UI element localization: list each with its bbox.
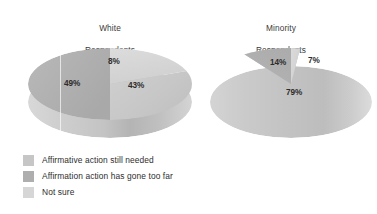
legend-swatch-affirmative-needed: [23, 155, 34, 166]
chart-title-white-line1: White: [99, 23, 121, 33]
chart-page: { "chart_data": [ { "type": "pie", "titl…: [0, 0, 377, 214]
legend: Affirmative action still needed Affirmat…: [23, 152, 253, 200]
chart-title-minority-line1: Minority: [266, 23, 296, 33]
legend-swatch-gone-too-far: [23, 171, 34, 182]
legend-label-1: Affirmation action has gone too far: [42, 171, 173, 181]
legend-label-2: Not sure: [42, 187, 74, 197]
pie-minority-label-14: 14%: [270, 58, 286, 67]
pie-white-label-43: 43%: [128, 81, 144, 90]
pie-white-label-8: 8%: [108, 57, 120, 66]
legend-swatch-not-sure: [23, 187, 34, 198]
pie-minority-label-7: 7%: [308, 56, 320, 65]
chart-minority-respondents: Minority Respondents: [196, 0, 377, 145]
pie-minority: 14% 7% 79%: [210, 48, 372, 138]
scan-artifact-line: [60, 50, 61, 138]
pie-minority-slice-7: [291, 48, 300, 84]
pie-minority-top: [210, 48, 372, 120]
legend-item-0: Affirmative action still needed: [23, 152, 253, 168]
chart-white-respondents: White Respondents: [0, 0, 200, 145]
pie-white-label-49: 49%: [64, 79, 80, 88]
legend-label-0: Affirmative action still needed: [42, 155, 154, 165]
legend-item-1: Affirmation action has gone too far: [23, 168, 253, 184]
pie-minority-label-79: 79%: [286, 88, 302, 97]
legend-item-2: Not sure: [23, 184, 253, 200]
pie-white: 49% 43% 8%: [28, 48, 192, 138]
